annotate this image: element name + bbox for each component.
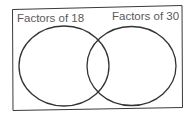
set-circle-factors-of-18 <box>19 26 109 106</box>
set-label-factors-of-18: Factors of 18 <box>17 13 84 25</box>
venn-diagram: Factors of 18 Factors of 30 <box>0 0 188 119</box>
set-circle-factors-of-30 <box>87 27 176 106</box>
set-label-factors-of-30: Factors of 30 <box>112 11 179 23</box>
